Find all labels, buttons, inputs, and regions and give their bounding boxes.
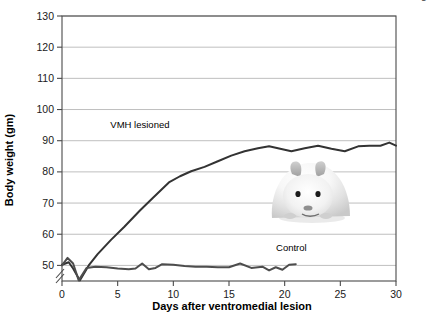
x-tick-label-25: 25 [334, 288, 346, 300]
y-tick-label-120: 120 [36, 41, 54, 53]
x-tick-label-15: 15 [223, 288, 235, 300]
body-weight-line-chart: 5060708090100110120130 051015202530 VMH … [0, 0, 442, 322]
y-axis-title: Body weight (gm) [3, 114, 15, 207]
credit-line-1: Illustration: © Cengage Learning 2013; [430, 0, 441, 62]
series-label-control: Control [276, 242, 307, 253]
y-tick-label-100: 100 [36, 103, 54, 115]
credit-line-2: photo: © Dr. Paul Kenyon, University of … [419, 0, 430, 62]
y-tick-label-130: 130 [36, 10, 54, 22]
x-axis-title: Days after ventromedial lesion [152, 300, 312, 312]
x-tick-label-5: 5 [115, 288, 121, 300]
y-tick-label-90: 90 [42, 134, 54, 146]
credit-text: Illustration: © Cengage Learning 2013; p… [407, 0, 441, 62]
y-tick-label-70: 70 [42, 197, 54, 209]
y-tick-label-80: 80 [42, 165, 54, 177]
y-tick-label-50: 50 [42, 259, 54, 271]
x-tick-label-0: 0 [59, 288, 65, 300]
series-label-vmh-lesioned: VMH lesioned [110, 119, 169, 130]
y-tick-label-110: 110 [37, 72, 54, 84]
figure-container: 5060708090100110120130 051015202530 VMH … [0, 0, 442, 322]
y-tick-label-60: 60 [42, 228, 54, 240]
x-tick-label-10: 10 [167, 288, 179, 300]
x-tick-label-20: 20 [279, 288, 291, 300]
x-tick-label-30: 30 [390, 288, 402, 300]
